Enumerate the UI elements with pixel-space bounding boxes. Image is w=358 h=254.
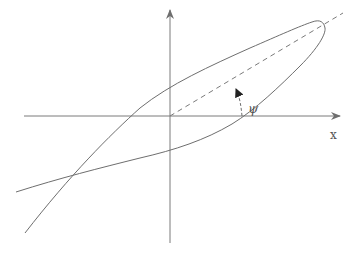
ellipse-upper-branch [25, 21, 325, 233]
diagram-canvas: ψ x [0, 0, 358, 254]
angle-label-psi: ψ [248, 101, 259, 116]
x-axis-label: x [330, 128, 337, 142]
angle-arc [236, 89, 242, 116]
ellipse-lower-branch [16, 28, 325, 192]
